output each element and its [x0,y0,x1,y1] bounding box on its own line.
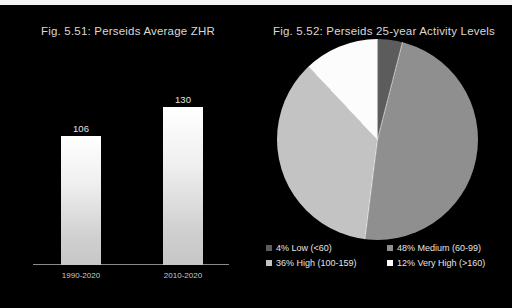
legend-label: 36% High (100-159) [276,258,357,268]
pie-graphic [277,39,478,240]
bar-value-label: 106 [61,123,101,134]
legend-label: 4% Low (<60) [276,243,332,253]
legend-item-high: 36% High (100-159) [266,258,381,268]
legend-item-low: 4% Low (<60) [266,243,381,253]
bar-2010-2020 [163,107,203,265]
chart-screenshot: Fig. 5.51: Perseids Average ZHR 106 130 … [0,0,512,308]
pie-legend: 4% Low (<60) 48% Medium (60-99) 36% High… [266,243,502,268]
legend-swatch-icon [266,245,272,251]
bar-value-label: 130 [163,94,203,105]
pie-slice-separator [364,139,378,239]
legend-item-very-high: 12% Very High (>160) [387,258,502,268]
legend-swatch-icon [266,260,272,266]
pie-slice-separator [308,66,378,140]
bar-category-label: 1990-2020 [43,271,119,280]
bar-1990-2020 [61,136,101,265]
legend-label: 48% Medium (60-99) [397,243,481,253]
legend-swatch-icon [387,260,393,266]
legend-label: 12% Very High (>160) [397,258,485,268]
pie-chart-panel: Fig. 5.52: Perseids 25-year Activity Lev… [256,5,512,308]
pie-chart-title: Fig. 5.52: Perseids 25-year Activity Lev… [256,25,512,37]
legend-item-medium: 48% Medium (60-99) [387,243,502,253]
bar-chart-panel: Fig. 5.51: Perseids Average ZHR 106 130 … [0,5,256,308]
legend-swatch-icon [387,245,393,251]
bar-category-label: 2010-2020 [145,271,221,280]
bar-plot-area: 106 130 1990-2020 2010-2020 [0,5,256,308]
pie-slice-separator [377,39,378,140]
pie-slice-separator [377,42,403,140]
